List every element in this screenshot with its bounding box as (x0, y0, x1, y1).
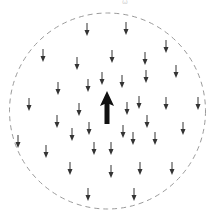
small-arrow-down-icon (75, 57, 80, 70)
small-arrow-down-icon (27, 98, 32, 111)
small-arrow-down-icon (138, 162, 143, 175)
small-arrow-down-icon (153, 132, 158, 145)
small-arrow-down-icon (164, 97, 169, 110)
small-arrow-down-icon (56, 82, 61, 95)
small-arrow-down-icon (170, 162, 175, 175)
small-arrow-down-icon (137, 96, 142, 109)
diagram-canvas (0, 0, 216, 214)
small-arrow-down-icon (181, 122, 186, 135)
small-arrow-down-icon (110, 50, 115, 63)
small-arrow-down-icon (132, 188, 137, 201)
small-arrow-down-icon (121, 125, 126, 138)
small-arrow-down-icon (143, 52, 148, 65)
small-arrow-down-icon (77, 103, 82, 116)
small-arrow-down-icon (41, 49, 46, 62)
small-arrow-down-icon (120, 75, 125, 88)
small-arrow-down-icon (124, 22, 129, 35)
small-arrow-down-icon (125, 102, 130, 115)
vector-field-diagram: ω (0, 0, 216, 214)
small-arrow-down-icon (131, 132, 136, 145)
small-arrow-down-icon (145, 115, 150, 128)
small-arrow-down-icon (68, 162, 73, 175)
small-arrow-down-icon (70, 128, 75, 141)
small-arrow-down-icon (164, 40, 169, 53)
main-arrow-up-icon (100, 91, 114, 124)
top-label: ω (122, 0, 128, 6)
small-arrow-down-icon (86, 188, 91, 201)
small-arrow-down-icon (109, 142, 114, 155)
small-arrow-down-icon (44, 145, 49, 158)
small-arrow-down-icon (87, 122, 92, 135)
small-arrow-down-icon (92, 142, 97, 155)
small-arrow-down-icon (55, 115, 60, 128)
small-arrow-down-icon (144, 70, 149, 83)
small-arrow-down-icon (174, 65, 179, 78)
small-arrow-down-icon (85, 23, 90, 36)
small-arrow-down-icon (196, 97, 201, 110)
small-arrow-down-icon (100, 72, 105, 85)
small-arrow-down-icon (86, 79, 91, 92)
small-arrow-down-icon (109, 165, 114, 178)
